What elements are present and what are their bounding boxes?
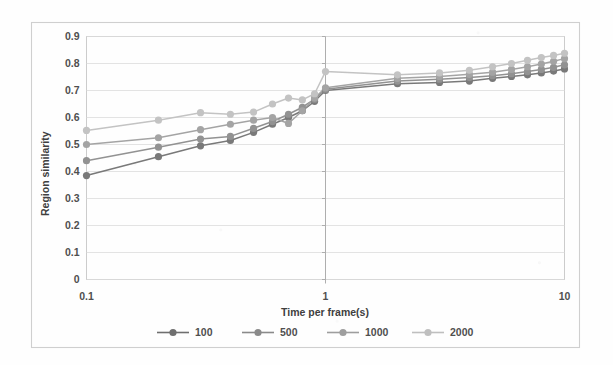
- data-point-100: [83, 172, 90, 179]
- data-point-2000: [155, 117, 162, 124]
- data-point-2000: [489, 63, 496, 70]
- data-point-2000: [508, 60, 515, 67]
- y-tick-label: 0.6: [65, 111, 80, 123]
- data-point-100: [197, 142, 204, 149]
- y-axis-tick-labels: 00.10.20.30.40.50.60.70.80.9: [65, 30, 80, 285]
- y-tick-label: 0.7: [65, 84, 80, 96]
- x-axis-tick-labels: 0.1110: [79, 290, 570, 302]
- data-point-1000: [524, 63, 531, 70]
- legend-item-100[interactable]: 100: [157, 326, 213, 338]
- y-tick-label: 0.8: [65, 57, 80, 69]
- data-point-2000: [561, 50, 568, 57]
- x-axis-title: Time per frame(s): [281, 306, 369, 318]
- data-point-2000: [436, 69, 443, 76]
- legend-swatch-marker-2000: [424, 329, 431, 336]
- legend-swatch-marker-1000: [339, 329, 346, 336]
- data-point-1000: [322, 84, 329, 91]
- data-point-2000: [550, 52, 557, 59]
- data-point-1000: [227, 121, 234, 128]
- legend-label-100: 100: [195, 326, 213, 338]
- data-point-500: [561, 61, 568, 68]
- data-point-2000: [285, 94, 292, 101]
- data-point-2000: [394, 71, 401, 78]
- data-point-1000: [299, 107, 306, 114]
- data-point-500: [227, 133, 234, 140]
- legend-item-2000[interactable]: 2000: [412, 326, 474, 338]
- y-tick-label: 0.1: [65, 246, 80, 258]
- x-tick-label: 1: [323, 290, 329, 302]
- data-point-2000: [466, 67, 473, 74]
- y-tick-label: 0.5: [65, 138, 80, 150]
- y-tick-label: 0.2: [65, 219, 80, 231]
- legend-label-1000: 1000: [365, 326, 389, 338]
- data-point-500: [285, 111, 292, 118]
- y-tick-label: 0.3: [65, 192, 80, 204]
- chart-legend[interactable]: 10050010002000: [157, 326, 474, 338]
- data-point-2000: [197, 109, 204, 116]
- y-tick-label: 0.9: [65, 30, 80, 42]
- data-point-500: [197, 136, 204, 143]
- data-point-2000: [269, 100, 276, 107]
- data-point-2000: [227, 111, 234, 118]
- y-axis-title: Region similarity: [39, 131, 51, 216]
- legend-swatch-marker-100: [169, 329, 176, 336]
- data-point-1000: [250, 117, 257, 124]
- x-tick-label: 0.1: [79, 290, 94, 302]
- y-tick-label: 0.4: [65, 165, 80, 177]
- data-point-100: [155, 153, 162, 160]
- data-point-2000: [299, 96, 306, 103]
- data-point-500: [250, 125, 257, 132]
- data-point-1000: [285, 120, 292, 127]
- data-point-2000: [83, 127, 90, 134]
- legend-label-2000: 2000: [450, 326, 474, 338]
- y-tick-label: 0: [74, 273, 80, 285]
- region-similarity-line-chart: 00.10.20.30.40.50.60.70.80.9 0.1110 Regi…: [0, 0, 613, 365]
- data-point-500: [155, 144, 162, 151]
- data-point-2000: [538, 54, 545, 61]
- data-point-2000: [524, 57, 531, 64]
- data-point-1000: [269, 114, 276, 121]
- data-point-1000: [197, 126, 204, 133]
- data-point-1000: [83, 141, 90, 148]
- data-point-2000: [322, 68, 329, 75]
- legend-label-500: 500: [280, 326, 298, 338]
- data-point-2000: [250, 109, 257, 116]
- data-point-2000: [311, 90, 318, 97]
- legend-item-1000[interactable]: 1000: [327, 326, 389, 338]
- data-point-500: [83, 157, 90, 164]
- x-tick-label: 10: [559, 290, 571, 302]
- data-point-1000: [155, 134, 162, 141]
- chart-container: 00.10.20.30.40.50.60.70.80.9 0.1110 Regi…: [0, 0, 613, 365]
- legend-swatch-marker-500: [254, 329, 261, 336]
- legend-item-500[interactable]: 500: [242, 326, 298, 338]
- data-point-1000: [538, 60, 545, 67]
